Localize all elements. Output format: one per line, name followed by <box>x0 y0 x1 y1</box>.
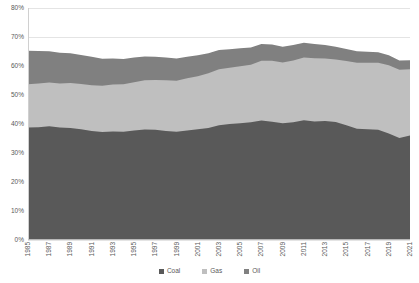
legend-label: Oil <box>252 268 260 275</box>
legend-swatch-icon <box>244 269 249 274</box>
x-axis-label: 2003 <box>216 242 223 256</box>
y-axis-label: 50% <box>11 92 24 99</box>
x-axis-label: 1989 <box>67 242 74 256</box>
x-axis-label: 2007 <box>258 242 265 256</box>
chart-legend: CoalGasOil <box>0 265 419 277</box>
x-axis-label: 1993 <box>110 242 117 256</box>
x-axis-label: 2009 <box>280 242 287 256</box>
x-axis-label: 1991 <box>89 242 96 256</box>
x-axis-label: 1987 <box>46 242 53 256</box>
legend-swatch-icon <box>159 269 164 274</box>
x-axis-label: 2019 <box>386 242 393 256</box>
y-axis-label: 10% <box>11 208 24 215</box>
x-axis-label: 2001 <box>195 242 202 256</box>
legend-item-oil[interactable]: Oil <box>244 268 260 275</box>
x-axis-label: 1985 <box>25 242 32 256</box>
y-axis-label: 20% <box>11 179 24 186</box>
y-axis-label: 0% <box>15 237 24 244</box>
legend-label: Gas <box>210 268 222 275</box>
y-axis-label: 70% <box>11 34 24 41</box>
x-axis-label: 1999 <box>174 242 181 256</box>
x-axis-label: 2011 <box>301 242 308 256</box>
y-axis-label: 40% <box>11 121 24 128</box>
y-axis-label: 60% <box>11 63 24 70</box>
x-axis-label: 1995 <box>131 242 138 256</box>
x-axis-label: 2005 <box>237 242 244 256</box>
y-axis-label: 30% <box>11 150 24 157</box>
legend-item-coal[interactable]: Coal <box>159 268 180 275</box>
legend-label: Coal <box>167 268 180 275</box>
legend-item-gas[interactable]: Gas <box>202 268 222 275</box>
x-axis-label: 2015 <box>343 242 350 256</box>
y-axis: 0%10%20%30%40%50%60%70%80% <box>0 0 28 283</box>
stacked-area-chart: 0%10%20%30%40%50%60%70%80% 1985198719891… <box>0 0 419 283</box>
x-axis-label: 2017 <box>365 242 372 256</box>
x-axis-label: 2021 <box>407 242 414 256</box>
plot-frame <box>28 8 410 240</box>
legend-swatch-icon <box>202 269 207 274</box>
x-axis-label: 1997 <box>152 242 159 256</box>
x-axis-label: 2013 <box>322 242 329 256</box>
y-axis-label: 80% <box>11 5 24 12</box>
